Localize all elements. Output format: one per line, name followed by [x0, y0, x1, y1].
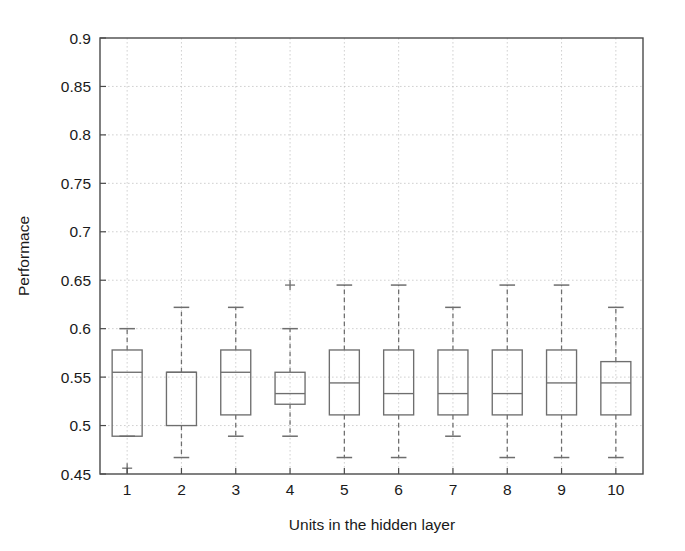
y-tick-label: 0.7: [69, 223, 91, 240]
y-tick-label: 0.55: [61, 369, 91, 386]
boxplot-chart: 0.450.50.550.60.650.70.750.80.850.9 1234…: [0, 0, 685, 551]
x-tick-label: 7: [449, 481, 458, 498]
y-tick-label: 0.5: [69, 417, 91, 434]
x-tick-label: 4: [286, 481, 295, 498]
y-tick-label: 0.45: [61, 466, 91, 483]
x-axis-title: Units in the hidden layer: [289, 516, 455, 533]
chart-background: [0, 0, 685, 551]
y-axis-title: Performace: [15, 216, 32, 296]
x-tick-label: 8: [503, 481, 512, 498]
y-tick-label: 0.85: [61, 78, 91, 95]
x-tick-label: 10: [607, 481, 625, 498]
x-tick-label: 3: [231, 481, 240, 498]
y-tick-label: 0.65: [61, 272, 91, 289]
x-tick-label: 2: [177, 481, 186, 498]
x-tick-label: 5: [340, 481, 349, 498]
x-tick-label: 6: [394, 481, 403, 498]
x-tick-label: 1: [123, 481, 132, 498]
y-tick-label: 0.6: [69, 320, 91, 337]
boxplot-figure: 0.450.50.550.60.650.70.750.80.850.9 1234…: [0, 0, 685, 551]
y-tick-label: 0.75: [61, 175, 91, 192]
x-tick-label: 9: [557, 481, 566, 498]
y-tick-label: 0.8: [69, 126, 91, 143]
y-tick-label: 0.9: [69, 30, 91, 47]
